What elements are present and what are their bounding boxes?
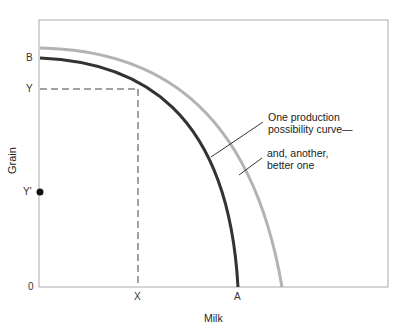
x-axis-title: Milk [204,313,223,324]
plot-frame [39,20,388,287]
label-y-prime: Y' [23,187,32,197]
annotation-inner-curve: One production possibility curve— [268,111,353,135]
annotation-outer-line2: better one [267,159,328,171]
label-origin: 0 [28,282,34,292]
annotation-inner-line1: One production [268,111,353,123]
inner-ppc-curve [40,58,238,287]
y-axis-title: Grain [6,147,18,174]
ppc-chart [0,0,400,336]
annotation-inner-line2: possibility curve— [268,123,353,135]
label-y: Y [26,84,33,94]
y-prime-point [37,189,44,196]
outer-ppc-curve [40,48,282,287]
annotation-outer-curve: and, another, better one [267,147,328,171]
label-x: X [134,292,141,302]
label-b: B [26,53,33,63]
annotation-outer-line1: and, another, [267,147,328,159]
label-a: A [234,292,241,302]
